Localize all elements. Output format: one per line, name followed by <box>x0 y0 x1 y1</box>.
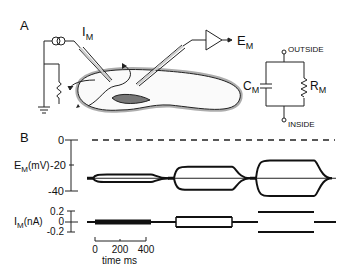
svg-text:EM: EM <box>237 33 253 51</box>
outside-label: OUTSIDE <box>288 45 324 54</box>
capacitor-icon <box>260 84 272 88</box>
inside-terminal <box>282 118 286 122</box>
em-upper-envelope <box>256 160 332 178</box>
svg-text:IM(nA): IM(nA) <box>14 215 43 230</box>
voltage-label: E <box>237 33 246 48</box>
em-tick-0: 0 <box>58 134 64 146</box>
resistor-label-sub: M <box>319 85 327 95</box>
ground-icon <box>38 107 50 113</box>
current-source-circuit <box>38 37 84 113</box>
capacitor-label: C <box>243 79 252 93</box>
inductor-icon <box>57 82 61 98</box>
em-axis-label: E <box>14 159 21 171</box>
capacitor-label-sub: M <box>252 85 260 95</box>
time-label: time ms <box>102 255 137 266</box>
im-pulse-trace <box>95 220 151 225</box>
time-tick-2: 400 <box>138 244 155 255</box>
em-axis <box>65 140 78 191</box>
time-scale-bar <box>95 237 146 241</box>
traces <box>87 160 336 232</box>
em-tick-2: -40 <box>48 185 64 197</box>
panel-a-label: A <box>20 18 29 33</box>
resistor-label: R <box>310 79 319 93</box>
im-axis <box>65 211 78 232</box>
svg-text:EM(mV): EM(mV) <box>14 159 50 174</box>
figure: A IM E <box>0 0 354 273</box>
panel-b-label: B <box>20 130 29 145</box>
em-tick-1: -20 <box>50 159 66 171</box>
svg-text:RM: RM <box>310 79 326 95</box>
em-upper-envelope <box>174 167 250 178</box>
amplifier-icon <box>206 30 232 50</box>
im-pulse-edges <box>176 217 232 227</box>
inside-label: INSIDE <box>288 120 315 129</box>
membrane-circuit <box>260 50 307 122</box>
em-lower-envelope <box>256 178 332 196</box>
current-label-sub: M <box>86 32 94 42</box>
em-lower-envelope <box>174 178 250 189</box>
time-tick-0: 0 <box>92 244 98 255</box>
svg-text:IM: IM <box>82 24 93 42</box>
im-tick-2: -0.2 <box>47 226 65 237</box>
resistor-icon <box>301 78 307 97</box>
em-upper-envelope <box>93 174 169 178</box>
time-tick-1: 200 <box>112 244 129 255</box>
outside-terminal <box>282 50 286 54</box>
voltage-label-sub: M <box>246 41 254 51</box>
em-lower-envelope <box>93 178 169 182</box>
svg-text:CM: CM <box>243 79 259 95</box>
